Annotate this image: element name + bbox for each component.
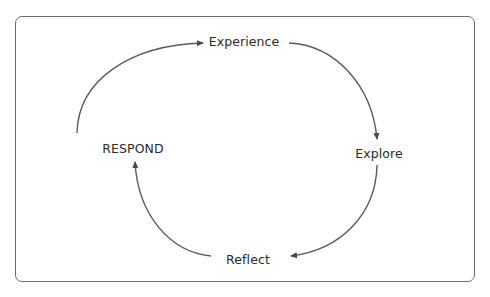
- arrow-reflect-to-respond: [135, 162, 211, 256]
- node-respond: RESPOND: [102, 141, 164, 156]
- node-explore: Explore: [355, 146, 403, 161]
- arrow-experience-to-explore: [289, 43, 377, 139]
- arrow-explore-to-reflect: [291, 165, 377, 256]
- node-reflect: Reflect: [226, 252, 270, 267]
- arrow-respond-to-experience: [77, 43, 203, 133]
- node-experience: Experience: [209, 34, 280, 49]
